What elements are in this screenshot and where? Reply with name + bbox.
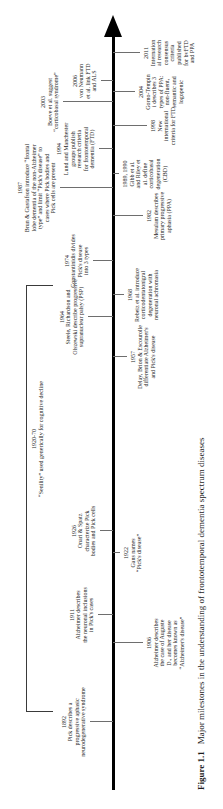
event-text-line: and PPA [189,40,196,66]
event-text-line: the case of Auguste [159,617,166,670]
timeline-event-1987: 1987Brun & Gustafson introduce “frontall… [17,144,57,232]
event-text-line: becomes known as [172,617,179,670]
event-text-line: Brun & Gustafson introduce “frontal [24,144,31,232]
timeline-event-1964: 1964Steele, Richardson andOlszewski desc… [59,279,85,355]
event-text-line: and Pick's disease [150,325,157,389]
event-text-line: Gibb et al. [129,159,136,190]
event-text-line: type” and limit “Pick's disease” to [37,144,44,232]
event-text-line: characterize Pick [84,506,91,557]
event-text-line: international [163,107,170,145]
event-tick-1982 [113,215,143,216]
timeline-event-19891990: 1989, 1990Gibb et al.and Riley etal. def… [122,159,168,190]
event-year: 1998 [150,107,157,145]
event-year: 1964 [59,279,66,355]
event-tick-1998 [113,125,147,126]
event-text-line: in Pick's cases [88,587,95,643]
event-text-line: corticobasal [148,159,155,190]
event-text-line: Pick's disease [77,234,84,288]
event-year: 1957 [130,325,137,389]
event-text-line: degeneration [155,159,162,190]
event-year: 1989, 1990 [122,159,129,190]
event-text-line: progressive aphasic [74,687,81,756]
timeline-event-1974: 1974Constantinidis dividesPick's disease… [64,234,90,288]
event-text-line: Internation [150,40,157,66]
event-text-line: “Pick's disease” [136,534,143,572]
era-text-line: “Senility” used generically for cognitiv… [38,381,45,497]
timeline-event-1998: 1998Newinternationalcriteria for FTD [150,107,176,145]
event-text-line: Rebeiz et al. introduce [134,268,141,322]
event-text-line: Mesulam describes [153,192,160,240]
event-text-line: lobe dementia of the non-Alzheimer [31,144,38,232]
event-text-line: corticodentatonigral [140,268,147,322]
event-text-line: Delay, Brion & Escourolle [137,325,144,389]
event-text-line: (CBD) [162,159,169,190]
event-tick-19891990 [113,173,119,174]
event-text-line: Steele, Richardson and [65,279,72,355]
timeline-event-1911: 1911Alzheimer describesthe neuronal incl… [69,587,95,643]
event-year: 2006 [72,63,79,98]
timeline-event-1994: 1994Lund and Manchestergroups publishres… [56,123,96,175]
event-text-line: cases where Pick bodies and [44,144,51,232]
event-text-line: semantic and [171,74,178,110]
figure-caption: Figure 1.1Major milestones in the unders… [196,437,207,790]
event-tick-1926 [100,530,113,531]
event-text-line: degeneration with [147,268,154,322]
event-year: 1982 [146,192,153,240]
event-tick-1922 [113,552,120,553]
event-tick-1964 [88,316,113,317]
event-text-line: Alzheimer describes [75,587,82,643]
event-text-line: al. define [142,159,149,190]
timeline-event-1922: 1922Gans names“Pick's disease” [123,534,143,572]
event-tick-2006 [101,80,113,81]
event-text-line: et al. link FTD [85,63,92,98]
event-year: 2004 [138,74,145,110]
event-year: 1968 [127,268,134,322]
event-text-line: al research [156,40,163,66]
event-text-line: i describes 3 [151,74,158,110]
event-tick-1994 [99,148,113,149]
event-year: 2003 [40,72,47,131]
event-text-line: published [176,40,183,66]
timeline-event-1968: 1968Rebeiz et al. introducecorticodentat… [127,268,160,322]
event-text-line: “Alzheimer's disease” [179,617,186,670]
event-text-line: consensus [163,40,170,66]
event-year: 1911 [69,587,76,643]
timeline-event-1982: 1982Mesulam describesprimary progressive… [146,192,172,240]
event-text-line: Alzheimer describes [153,617,160,670]
event-tick-1906 [113,642,143,643]
era-label: 1920-70“Senility” used generically for c… [31,381,44,497]
event-tick-1987 [60,187,113,188]
timeline-axis [112,37,115,790]
timeline-arrowhead-icon [104,15,122,37]
event-text-line: logopenic [178,74,185,110]
event-text-line: Gorno-Tempin [145,74,152,110]
timeline-event-1957: 1957Delay, Brion & Escourolledifferentia… [130,325,156,389]
event-tick-2003 [63,101,113,102]
event-text-line: New [157,107,164,145]
event-text-line: for frontotemporal [83,123,90,175]
event-text-line: non-fluent, [164,74,171,110]
event-text-line: research criteria [76,123,83,175]
event-text-line: and Riley et [135,159,142,190]
event-text-line: Boeve et al. suggest [47,72,54,131]
event-year: 1974 [64,234,71,288]
event-text-line: types of PPA: [158,74,165,110]
event-text-line: groups publish [70,123,77,175]
event-text-line: “corticobasal syndrome” [53,72,60,131]
event-text-line: primary progressive [159,192,166,240]
timeline-event-2006: 2006von Neumannet al. link FTDand ALS [72,63,98,98]
event-text-line: Olszewski describe progressive [72,279,79,355]
figure-page: 1920-70“Senility” used generically for c… [0,0,223,809]
timeline-event-2003: 2003Boeve et al. suggest“corticobasal sy… [40,72,60,131]
event-text-line: Lund and Manchester [63,123,70,175]
figure-caption-text: Major milestones in the understanding of… [196,437,206,744]
event-text-line: Gans names [130,534,137,572]
event-text-line: aphasia (PPA) [166,192,173,240]
event-text-line: for bvFTD [183,40,190,66]
event-text-line: neurodegenerative syndrome [80,687,87,756]
event-text-line: and ALS [91,63,98,98]
event-tick-1911 [98,614,113,615]
event-tick-1957 [113,356,127,357]
event-text-line: into 3 types [83,234,90,288]
event-text-line: Onari & Spatz [77,506,84,557]
